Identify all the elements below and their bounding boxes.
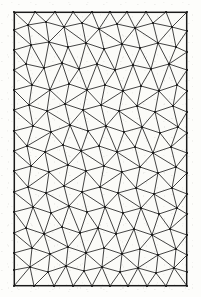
mesh-vertex [98,28,100,30]
mesh-panel-background [14,12,187,286]
mesh-vertex [67,46,69,48]
mesh-vertex [137,267,139,269]
mesh-vertex [45,192,47,194]
mesh-vertex [47,271,49,273]
mesh-vertex [121,171,123,173]
mesh-vertex [152,22,154,24]
mesh-vertex [171,26,173,28]
mesh-vertex [45,21,47,23]
mesh-vertex [104,84,106,86]
mesh-vertex [118,110,120,112]
mesh-vertex [157,172,159,174]
mesh-vertex [139,166,141,168]
mesh-vertex [175,46,177,48]
mesh-vertex [85,170,87,172]
mesh-vertex [29,266,31,268]
mesh-vertex [159,132,161,134]
mesh-vertex [25,227,27,229]
mesh-vertex [134,146,136,148]
mesh-vertex [64,103,66,105]
mesh-vertex [132,64,134,66]
mesh-vertex [134,27,136,29]
mesh-vertex [101,266,103,268]
mesh-vertex [150,68,152,70]
mesh-vertex [86,211,88,213]
mesh-vertex [140,207,142,209]
mesh-vertex [30,44,32,46]
mesh-vertex [116,151,118,153]
mesh-vertex [85,42,87,44]
mesh-vertex [43,67,45,69]
mesh-vertex [103,48,105,50]
triangulated-mesh-figure [0,0,201,297]
mesh-vertex [153,193,155,195]
mesh-vertex [87,130,89,132]
mesh-vertex [97,227,99,229]
mesh-vertex [81,191,83,193]
mesh-vertex [43,233,45,235]
mesh-vertex [65,265,67,267]
mesh-vertex [27,24,29,26]
mesh-vertex [133,228,135,230]
mesh-vertex [157,254,159,256]
mesh-vertex [115,233,117,235]
mesh-vertex [48,41,50,43]
mesh-vertex [61,62,63,64]
mesh-vertex [79,232,81,234]
mesh-vertex [63,185,65,187]
mesh-vertex [31,84,33,86]
mesh-vertex [46,110,48,112]
mesh-vertex [86,89,88,91]
mesh-vertex [117,192,119,194]
mesh-vertex [83,270,85,272]
mesh-vertex [25,63,27,65]
mesh-vertex [151,234,153,236]
mesh-vertex [141,126,143,128]
mesh-vertex [98,145,100,147]
mesh-vertex [103,165,105,167]
mesh-vertex [67,246,69,248]
mesh-vertex [30,165,32,167]
mesh-vertex [175,248,177,250]
mesh-vertex [170,146,172,148]
mesh-vertex [122,212,124,214]
mesh-vertex [169,228,171,230]
mesh-vertex [100,104,102,106]
mesh-vertex [48,171,50,173]
mesh-vertex [135,187,137,189]
mesh-vertex [104,206,106,208]
mesh-vertex [157,42,159,44]
mesh-vertex [103,247,105,249]
mesh-vertex [44,151,46,153]
mesh-vertex [139,248,141,250]
mesh-vertex [176,84,178,86]
mesh-vertex [62,144,64,146]
mesh-vertex [177,126,179,128]
mesh-vertex [50,212,52,214]
mesh-vertex [176,207,178,209]
mesh-vertex [158,213,160,215]
mesh-vertex [152,152,154,154]
mesh-vertex [173,267,175,269]
mesh-vertex [68,205,70,207]
mesh-vertex [121,43,123,45]
mesh-vertex [158,90,160,92]
mesh-vertex [114,69,116,71]
mesh-vertex [96,63,98,65]
mesh-vertex [78,68,80,70]
mesh-vertex [26,145,28,147]
mesh-vertex [168,63,170,65]
mesh-vertex [122,90,124,92]
mesh-vertex [50,131,52,133]
mesh-vertex [121,253,123,255]
mesh-vertex [68,83,70,85]
mesh-vertex [31,247,33,249]
mesh-vertex [139,47,141,49]
mesh-vertex [172,105,174,107]
mesh-vertex [123,131,125,133]
mesh-vertex [80,150,82,152]
mesh-vertex [67,164,69,166]
mesh-vertex [155,272,157,274]
mesh-vertex [175,166,177,168]
mesh-vertex [27,186,29,188]
